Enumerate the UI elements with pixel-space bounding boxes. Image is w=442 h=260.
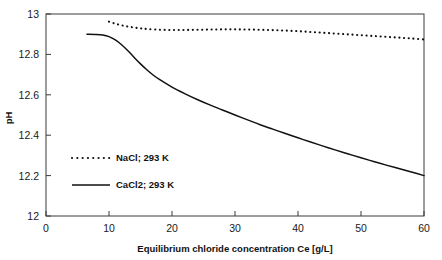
y-tick-label: 12.8 bbox=[19, 48, 40, 60]
x-tick-label: 50 bbox=[355, 222, 367, 234]
y-tick-label: 12.6 bbox=[19, 89, 40, 101]
y-tick-label: 12.4 bbox=[19, 129, 40, 141]
x-tick-label: 10 bbox=[103, 222, 115, 234]
y-tick-label: 13 bbox=[27, 8, 39, 20]
legend-label: NaCl; 293 K bbox=[116, 152, 169, 163]
legend-label: CaCl2; 293 K bbox=[116, 179, 174, 190]
x-tick-label: 60 bbox=[418, 222, 430, 234]
x-tick-label: 20 bbox=[166, 222, 178, 234]
x-tick-label: 40 bbox=[292, 222, 304, 234]
y-axis-title: pH bbox=[3, 112, 14, 125]
x-tick-label: 30 bbox=[229, 222, 241, 234]
x-axis-title: Equilibrium chloride concentration Ce [g… bbox=[137, 243, 332, 254]
ph-vs-chloride-concentration-chart: 0102030405060 1212.212.412.612.813 NaCl;… bbox=[0, 0, 442, 260]
chart-background bbox=[0, 0, 442, 260]
y-tick-label: 12.2 bbox=[19, 170, 40, 182]
y-tick-label: 12 bbox=[27, 210, 39, 222]
x-tick-label: 0 bbox=[43, 222, 49, 234]
